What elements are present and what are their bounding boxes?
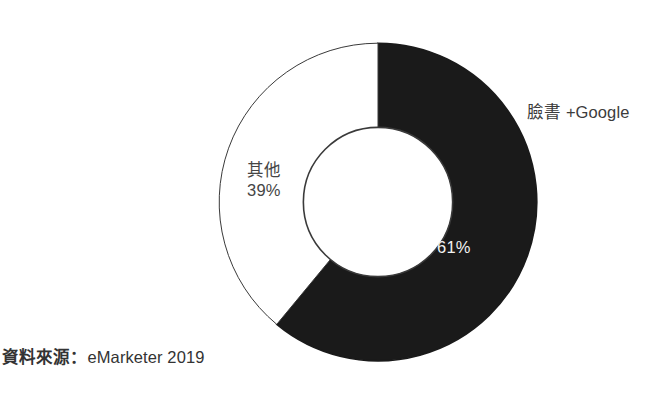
slice-label-other: 其他 39%	[247, 160, 281, 200]
top-edge-text-fragment: 上	[60, 0, 76, 2]
slice-value-facebook-google: 61%	[437, 237, 471, 257]
donut-chart-figure: 上 臉書 +Google 其他 39% 61% 資料來源：eMarketer 2…	[0, 0, 648, 399]
source-note: 資料來源：eMarketer 2019	[2, 344, 204, 368]
donut-chart-svg	[218, 42, 538, 362]
donut-center-hole	[303, 127, 452, 276]
slice-value-other: 39%	[247, 180, 281, 200]
slice-label-facebook-google: 臉書 +Google	[527, 102, 629, 122]
source-note-label: 資料來源：	[2, 348, 88, 366]
slice-label-other-name: 其他	[247, 161, 281, 179]
source-note-value: eMarketer 2019	[88, 348, 205, 366]
donut-chart-plot	[218, 42, 538, 362]
